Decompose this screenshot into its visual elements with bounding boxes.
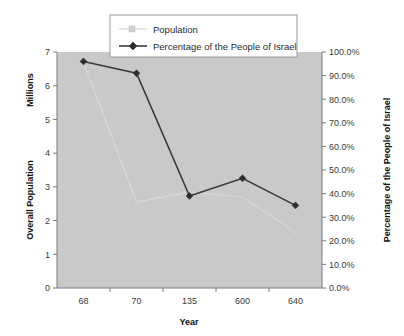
- x-tick-label: 70: [131, 296, 141, 306]
- x-tick-label: 640: [288, 296, 303, 306]
- x-axis-title: Year: [179, 317, 199, 327]
- left-tick-label: 7: [45, 47, 50, 57]
- left-tick-label: 1: [45, 250, 50, 260]
- legend-marker-population: [129, 26, 135, 32]
- data-point-population-70[interactable]: [134, 199, 139, 204]
- right-tick-label: 40.0%: [329, 189, 355, 199]
- right-tick-label: 50.0%: [329, 165, 355, 175]
- legend: Population Percentage of the People of I…: [110, 15, 297, 57]
- chart-container: 01234567 0.0%10.0%20.0%30.0%40.0%50.0%60…: [0, 0, 404, 336]
- left-tick-label: 6: [45, 81, 50, 91]
- data-point-population-600[interactable]: [240, 194, 245, 199]
- legend-label-percentage: Percentage of the People of Israel: [153, 41, 297, 52]
- right-tick-label: 0.0%: [329, 283, 350, 293]
- plot-area: [57, 52, 322, 288]
- left-tick-label: 3: [45, 182, 50, 192]
- right-tick-label: 20.0%: [329, 236, 355, 246]
- legend-label-population: Population: [153, 24, 198, 35]
- right-tick-label: 70.0%: [329, 118, 355, 128]
- right-tick-label: 30.0%: [329, 213, 355, 223]
- right-tick-label: 100.0%: [329, 47, 360, 57]
- right-axis-title: Percentage of the People of Israel: [382, 98, 392, 243]
- right-tick-label: 10.0%: [329, 260, 355, 270]
- left-axis-unit-label: Millions: [25, 73, 35, 107]
- right-tick-label: 60.0%: [329, 142, 355, 152]
- x-tick-label: 68: [78, 296, 88, 306]
- left-tick-label: 5: [45, 115, 50, 125]
- left-axis-title: Overall Population: [25, 160, 35, 240]
- right-tick-label: 90.0%: [329, 71, 355, 81]
- left-tick-label: 2: [45, 216, 50, 226]
- x-tick-label: 600: [235, 296, 250, 306]
- x-tick-label: 135: [182, 296, 197, 306]
- right-tick-label: 80.0%: [329, 95, 355, 105]
- left-tick-label: 4: [45, 148, 50, 158]
- left-tick-label: 0: [45, 283, 50, 293]
- line-chart: 01234567 0.0%10.0%20.0%30.0%40.0%50.0%60…: [0, 0, 404, 336]
- data-point-population-640[interactable]: [293, 230, 298, 235]
